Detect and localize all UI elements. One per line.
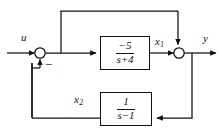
signal-label-y: y	[203, 33, 208, 44]
feedback-transfer-function: 1 s−1	[117, 96, 134, 121]
forward-denominator: s+4	[116, 54, 133, 66]
signal-label-x2-subscript: 2	[79, 98, 83, 107]
summing-junction-minus-sign: −	[45, 58, 52, 71]
forward-transfer-block[interactable]: −5 s+4	[100, 36, 150, 70]
feedback-transfer-block[interactable]: 1 s−1	[100, 92, 152, 126]
block-diagram-canvas: −5 s+4 1 s−1 u x1 y x2 −	[0, 0, 222, 133]
signal-label-u: u	[21, 32, 27, 43]
signal-label-x1: x1	[155, 36, 164, 48]
input-summer-circle	[35, 48, 45, 58]
output-summer-circle	[174, 48, 184, 58]
feedback-numerator: 1	[117, 96, 134, 109]
feedback-denominator: s−1	[117, 110, 134, 122]
signal-label-x1-subscript: 1	[160, 40, 164, 49]
forward-numerator: −5	[116, 40, 133, 53]
signal-label-x2: x2	[74, 94, 83, 106]
forward-transfer-function: −5 s+4	[116, 40, 133, 65]
